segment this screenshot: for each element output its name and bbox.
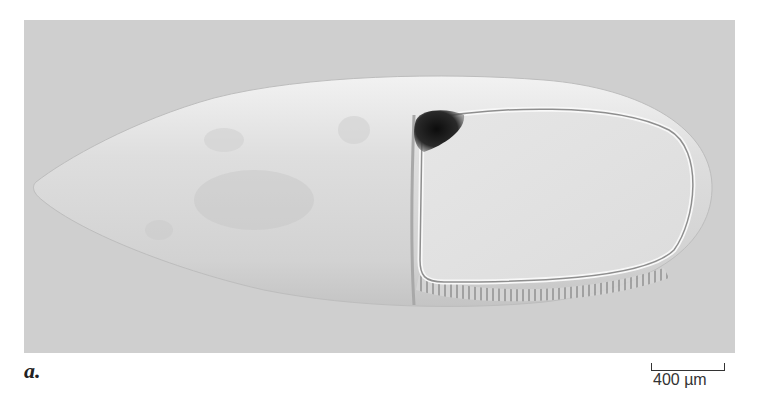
panel-label: a. [24, 360, 41, 382]
micrograph-panel [24, 20, 735, 353]
germ-band [420, 109, 693, 282]
scale-bar [651, 363, 725, 371]
egg-micrograph [24, 20, 735, 353]
figure: a. 400 µm [0, 0, 762, 399]
scale-bar-label: 400 µm [653, 372, 707, 388]
